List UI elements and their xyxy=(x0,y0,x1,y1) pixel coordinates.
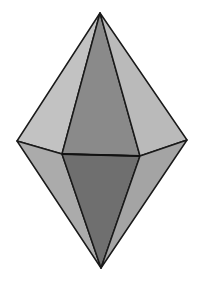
bipyramid-diagram xyxy=(0,0,211,283)
bipyramid-figure xyxy=(0,0,211,283)
